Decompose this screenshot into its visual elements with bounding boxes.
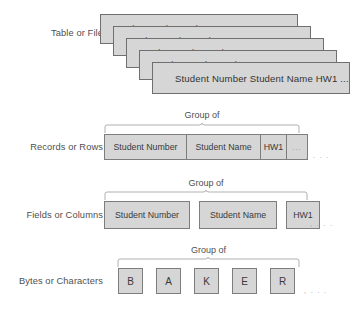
group-of-label-fields: Group of [104, 178, 308, 188]
table-card-front-text: Student Number Student Name HW1 ... [153, 73, 349, 84]
record-cell-ellipsis: ... [287, 135, 307, 159]
record-cell: Student Number [105, 135, 187, 159]
tier-label-records-or-rows: Records or Rows [0, 142, 103, 152]
tier-label-table-or-file: Table or File [0, 28, 103, 38]
record-cell: HW1 [261, 135, 287, 159]
tier-label-bytes-or-characters: Bytes or Characters [0, 276, 103, 286]
record-row: Student Number Student Name HW1 ... [104, 134, 308, 160]
group-of-label-bytes: Group of [117, 245, 300, 255]
brace-records [104, 123, 300, 134]
byte-cell: B [118, 268, 143, 294]
stacked-cards-table-or-file: Student Number Student Name HW1 Student … [100, 14, 345, 106]
bytes-trailing-ellipsis: , . . . [304, 287, 327, 294]
bytes-row: B A K E R [118, 268, 295, 294]
table-card-front: Student Number Student Name HW1 ... [152, 62, 350, 94]
byte-cell: E [232, 268, 257, 294]
byte-cell: A [156, 268, 181, 294]
group-of-label-records: Group of [104, 110, 300, 120]
tier-label-fields-or-columns: Fields or Columns [0, 210, 103, 220]
field-cell: Student Number [104, 201, 190, 229]
fields-trailing-ellipsis: , . . . [310, 220, 333, 227]
fields-row: Student Number Student Name HW1 [104, 201, 320, 229]
byte-cell: R [270, 268, 295, 294]
brace-bytes [117, 257, 300, 268]
record-cell: Student Name [187, 135, 261, 159]
brace-fields [104, 190, 308, 201]
byte-cell: K [194, 268, 219, 294]
records-trailing-ellipsis: , . . . [306, 152, 329, 159]
field-cell: Student Name [199, 201, 277, 229]
